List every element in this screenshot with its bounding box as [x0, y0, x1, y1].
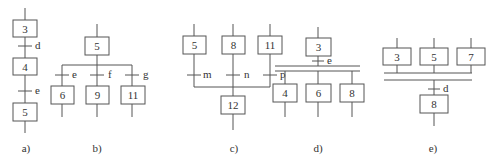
diagram-e-parallel-convergence: 3 5 7 d 8 e) [383, 38, 485, 155]
transition-condition: g [143, 68, 149, 80]
transition-condition: m [203, 68, 212, 80]
step-box: 12 [221, 96, 245, 114]
step-number: 5 [192, 39, 198, 51]
step-box: 4 [273, 84, 297, 102]
step-number: 5 [431, 51, 437, 63]
step-number: 6 [60, 89, 66, 101]
step-number: 6 [316, 87, 322, 99]
step-number: 4 [282, 87, 288, 99]
step-number: 8 [349, 87, 355, 99]
step-number: 3 [394, 51, 400, 63]
step-number: 3 [316, 41, 322, 53]
step-number: 12 [228, 99, 239, 111]
step-box: 8 [420, 95, 448, 113]
step-box: 7 [457, 48, 485, 65]
diagram-caption: a) [22, 142, 31, 155]
step-number: 11 [265, 39, 276, 51]
diagram-b-selection-divergence: 5 e 6 f 9 g 11 b) [51, 24, 149, 155]
transition-condition: e [35, 84, 40, 96]
step-box: 3 [13, 20, 37, 37]
step-box: 5 [183, 36, 206, 54]
transition-condition: d [35, 39, 41, 51]
diagram-d-parallel-divergence: 3 e 4 6 8 d) [273, 27, 364, 155]
step-number: 8 [431, 98, 437, 110]
step-box: 3 [383, 48, 411, 65]
transition-condition: n [244, 68, 250, 80]
step-box: 5 [85, 37, 109, 55]
step-box: 11 [258, 36, 282, 54]
sfc-diagram-canvas: 3 d 4 e 5 a) 5 e 6 [0, 0, 487, 161]
step-number: 5 [94, 40, 100, 52]
step-box: 6 [306, 84, 331, 102]
diagram-caption: b) [92, 142, 102, 155]
step-box: 6 [51, 86, 74, 104]
diagram-c-selection-convergence: 5 m 8 n 11 p 12 c) [183, 24, 286, 155]
transition-condition: e [327, 54, 332, 66]
step-number: 3 [22, 23, 28, 35]
step-box: 8 [340, 84, 364, 102]
step-number: 7 [468, 51, 474, 63]
diagram-caption: d) [313, 142, 323, 155]
diagram-a-single-sequence: 3 d 4 e 5 a) [13, 8, 41, 155]
step-box: 8 [222, 36, 245, 54]
step-box: 5 [420, 48, 448, 65]
step-box: 11 [121, 86, 145, 104]
diagram-caption: e) [429, 142, 438, 155]
transition-condition: e [72, 68, 77, 80]
step-box: 4 [13, 58, 37, 75]
step-number: 8 [231, 39, 237, 51]
step-number: 5 [22, 106, 28, 118]
step-box: 5 [13, 103, 37, 121]
transition-condition: f [108, 68, 112, 80]
step-number: 11 [128, 89, 139, 101]
step-box: 9 [86, 86, 109, 104]
transition-condition: d [443, 82, 449, 94]
diagram-caption: c) [230, 142, 239, 155]
step-number: 9 [95, 89, 101, 101]
step-number: 4 [22, 61, 28, 73]
